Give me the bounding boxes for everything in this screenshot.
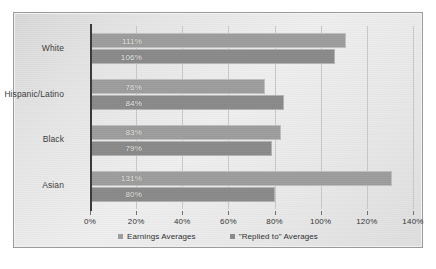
bar: 111% <box>90 33 346 48</box>
x-tick-label: 60% <box>220 217 237 226</box>
x-tick-mark <box>413 211 414 215</box>
gridline-140 <box>413 26 414 209</box>
bar-group: 111%106% <box>90 33 413 64</box>
x-tick-label: 0% <box>84 217 96 226</box>
category-label: Black <box>43 134 64 144</box>
x-tick-mark <box>182 211 183 215</box>
bar: 80% <box>90 187 275 202</box>
x-tick-label: 20% <box>128 217 145 226</box>
chart-legend: Earnings Averages"Replied to" Averages <box>14 232 422 241</box>
legend-item[interactable]: Earnings Averages <box>118 232 196 241</box>
bar-value-label: 84% <box>125 98 142 107</box>
bar-value-label: 79% <box>125 144 142 153</box>
bar-value-label: 131% <box>121 174 142 183</box>
legend-swatch-icon <box>118 234 123 239</box>
x-tick-mark <box>367 211 368 215</box>
x-tick-mark <box>321 211 322 215</box>
x-tick-mark <box>228 211 229 215</box>
bar: 131% <box>90 171 392 186</box>
x-tick-mark <box>90 211 91 215</box>
x-tick-mark <box>136 211 137 215</box>
bar: 79% <box>90 141 272 156</box>
bar-value-label: 106% <box>121 52 142 61</box>
bar-value-label: 111% <box>122 36 142 45</box>
legend-label: "Replied to" Averages <box>239 232 318 241</box>
bar: 83% <box>90 125 281 140</box>
bar-group: 131%80% <box>90 171 413 202</box>
x-tick-label: 120% <box>356 217 377 226</box>
x-axis: 0%20%40%60%80%100%120%140% <box>90 211 413 233</box>
chart-container: 111%106%76%84%83%79%131%80% WhiteHispani… <box>13 12 423 248</box>
x-tick-label: 140% <box>402 217 423 226</box>
legend-item[interactable]: "Replied to" Averages <box>230 232 318 241</box>
category-label: White <box>42 43 64 53</box>
bar-group: 76%84% <box>90 79 413 110</box>
x-tick-mark <box>275 211 276 215</box>
bar: 84% <box>90 95 284 110</box>
legend-label: Earnings Averages <box>127 232 196 241</box>
bar: 76% <box>90 79 265 94</box>
x-tick-label: 80% <box>266 217 283 226</box>
legend-swatch-icon <box>230 234 235 239</box>
category-label: Asian <box>42 180 64 190</box>
x-tick-label: 100% <box>310 217 331 226</box>
value-axis-line <box>90 24 92 211</box>
bar-group: 83%79% <box>90 125 413 156</box>
bar: 106% <box>90 49 335 64</box>
plot-area: 111%106%76%84%83%79%131%80% <box>90 26 413 209</box>
bar-value-label: 80% <box>125 190 142 199</box>
bar-value-label: 76% <box>125 82 142 91</box>
x-tick-label: 40% <box>174 217 191 226</box>
bar-value-label: 83% <box>125 128 142 137</box>
category-label: Hispanic/Latino <box>4 89 64 99</box>
